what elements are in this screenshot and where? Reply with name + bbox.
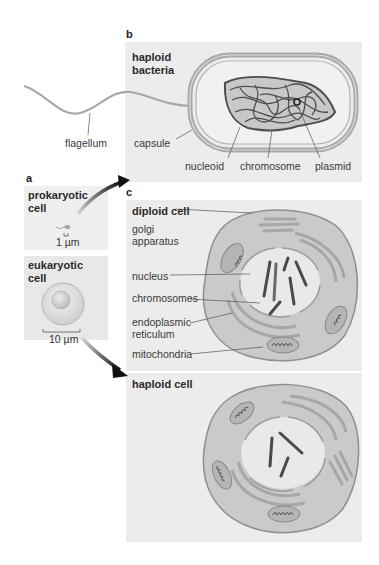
prokaryotic-scale: 1 µm	[56, 236, 80, 248]
label-capsule: capsule	[134, 137, 170, 149]
eukaryotic-scale: 10 µm	[49, 333, 78, 345]
prokaryotic-title: prokaryotic cell	[28, 189, 88, 215]
bacteria-title: haploid bacteria	[132, 51, 174, 77]
label-chromosomes: chromosomes	[132, 292, 198, 304]
label-chromosome: chromosome	[240, 160, 301, 172]
arrow-to-haploid	[82, 338, 120, 370]
panel-label-a: a	[26, 172, 32, 184]
diploid-title: diploid cell	[132, 205, 189, 218]
label-golgi: golgi apparatus	[132, 223, 179, 247]
label-nucleus: nucleus	[132, 270, 168, 282]
haploid-cell	[203, 384, 358, 532]
label-plasmid: plasmid	[315, 160, 351, 172]
eukaryotic-title: eukaryotic cell	[28, 259, 83, 285]
label-endoplasmic-reticulum: endoplasmic reticulum	[132, 316, 191, 340]
panel-label-b: b	[126, 28, 133, 40]
panel-label-c: c	[126, 186, 132, 198]
label-mitochondria: mitochondria	[132, 348, 192, 360]
label-flagellum: flagellum	[65, 137, 107, 149]
haploid-title: haploid cell	[132, 378, 193, 391]
diploid-cell	[203, 210, 357, 361]
label-nucleoid: nucleoid	[185, 160, 224, 172]
